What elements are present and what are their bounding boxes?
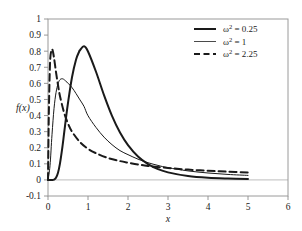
x-tick-label: 3 [166, 202, 171, 212]
y-tick-label: 0.9 [29, 30, 41, 40]
y-tick-label: 0.4 [29, 111, 41, 121]
x-tick-label: 0 [46, 202, 51, 212]
y-axis-label: f(x) [16, 102, 31, 114]
x-tick-label: 6 [286, 202, 291, 212]
y-tick-label: -0.1 [26, 191, 41, 201]
y-tick-label: 0.2 [29, 143, 41, 153]
x-tick-label: 2 [126, 202, 131, 212]
x-tick-label: 1 [86, 202, 91, 212]
y-tick-label: 0 [36, 175, 41, 185]
y-tick-label: 0.8 [29, 47, 41, 57]
x-tick-label: 5 [246, 202, 251, 212]
legend-label-omega2-1: ω2 = 1 [223, 36, 246, 47]
x-axis-ticks: 0123456 [46, 196, 291, 212]
legend-label-omega2-2.25: ω2 = 2.25 [223, 48, 258, 59]
y-tick-label: 1 [36, 14, 41, 24]
y-tick-label: 0.3 [29, 127, 41, 137]
x-axis-label: x [165, 213, 171, 224]
legend-label-omega2-0.25: ω2 = 0.25 [223, 23, 258, 34]
chart-canvas: 0123456 -0.100.10.20.30.40.50.60.70.80.9… [0, 0, 302, 231]
chart-figure: 0123456 -0.100.10.20.30.40.50.60.70.80.9… [0, 0, 302, 231]
y-tick-label: 0.5 [29, 95, 41, 105]
y-tick-label: 0.6 [29, 79, 41, 89]
y-tick-label: 0.1 [29, 159, 41, 169]
x-tick-label: 4 [206, 202, 211, 212]
y-tick-label: 0.7 [29, 63, 41, 73]
